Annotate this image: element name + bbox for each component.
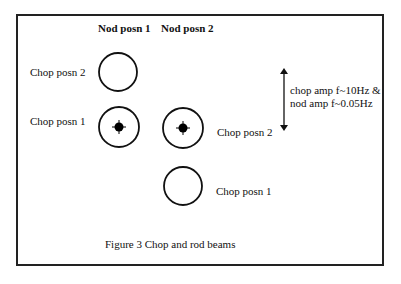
beam-diagram xyxy=(0,0,401,284)
beam-circle-empty xyxy=(99,53,137,91)
source-star-icon xyxy=(112,120,126,134)
double-arrow-icon xyxy=(280,68,288,131)
source-star-icon xyxy=(176,121,190,135)
beam-circle-empty xyxy=(164,167,202,205)
